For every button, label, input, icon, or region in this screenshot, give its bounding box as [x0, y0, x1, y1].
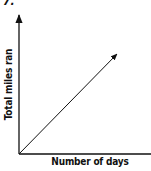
- chart-plot: [0, 0, 151, 171]
- data-line-arrow: [19, 54, 117, 154]
- x-axis-label: Number of days: [40, 156, 140, 167]
- y-axis-label: Total miles ran: [3, 45, 14, 125]
